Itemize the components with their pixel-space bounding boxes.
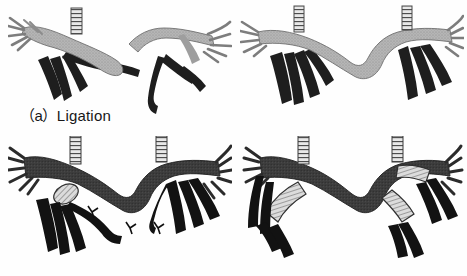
stapled-stump-right bbox=[392, 136, 403, 162]
stapled-stump-left bbox=[70, 136, 81, 164]
panel-direct-anastomosis: （c）Direct anastomosis bbox=[240, 4, 464, 132]
panel-interposition: equine pericardial roll or azygos segmen… bbox=[240, 136, 464, 272]
vena-cava-right-segment bbox=[129, 22, 231, 64]
figure-canvas: （a）Ligation bbox=[0, 0, 467, 276]
right-branch-vessels bbox=[398, 44, 452, 100]
vena-cava-left-segment bbox=[8, 18, 123, 76]
plasty-illustration bbox=[8, 136, 232, 272]
stapled-stump-right bbox=[402, 6, 412, 30]
panel-ligation: （a）Ligation bbox=[8, 4, 232, 132]
stapled-stump-right bbox=[156, 136, 167, 162]
stapled-stump-left bbox=[71, 8, 82, 34]
caption-ligation: （a）Ligation bbox=[20, 104, 111, 125]
interposition-illustration bbox=[240, 136, 464, 272]
right-branch-vessels bbox=[388, 178, 458, 258]
stapled-stump-left bbox=[298, 136, 309, 164]
caption-text-a: Ligation bbox=[57, 107, 111, 124]
interposition-graft-right-lower bbox=[382, 190, 414, 222]
right-branch-vessels bbox=[149, 178, 220, 234]
interposition-graft-right-upper bbox=[396, 165, 430, 182]
stapled-stump-left bbox=[294, 6, 304, 32]
panel-plasty: （b）Plasty bbox=[8, 136, 232, 272]
caption-label-a: （a） bbox=[20, 107, 57, 124]
direct-anastomosis-illustration bbox=[240, 4, 464, 132]
right-branch-vessels bbox=[148, 54, 206, 114]
